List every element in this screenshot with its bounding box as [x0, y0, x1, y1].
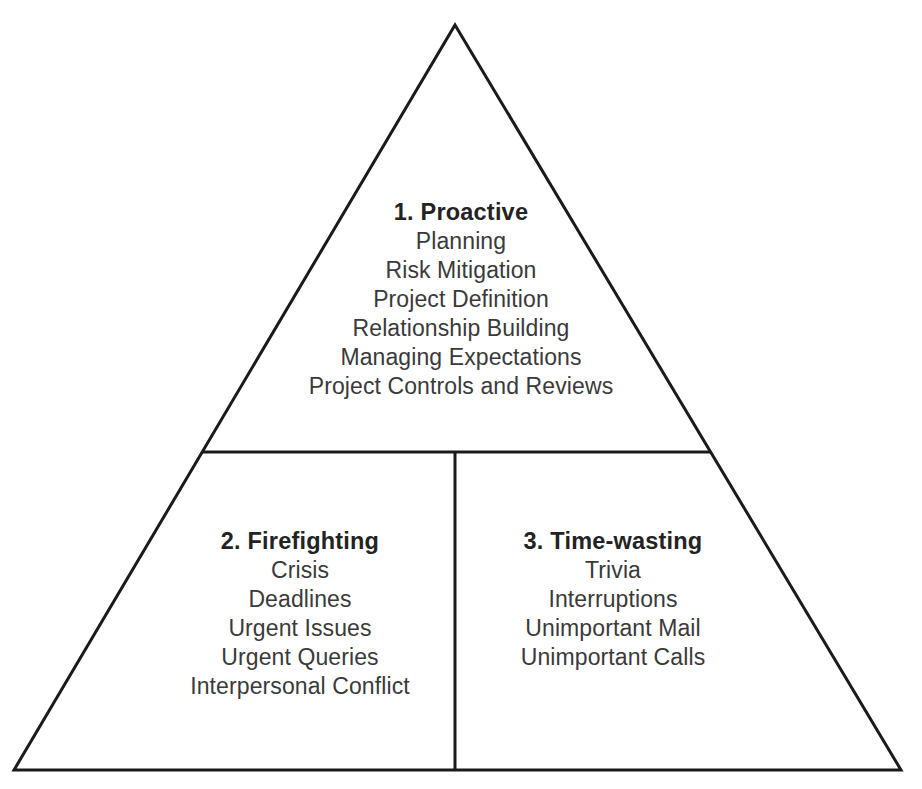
section-firefighting-item: Interpersonal Conflict [100, 672, 500, 701]
section-timewasting-heading: 3. Time-wasting [463, 527, 763, 556]
section-proactive-item: Relationship Building [0, 314, 922, 343]
section-proactive-item: Risk Mitigation [0, 256, 922, 285]
section-timewasting: 3. Time-wasting Trivia Interruptions Uni… [463, 527, 763, 672]
section-timewasting-item: Interruptions [463, 585, 763, 614]
section-firefighting-heading: 2. Firefighting [100, 527, 500, 556]
section-timewasting-item: Trivia [463, 556, 763, 585]
section-proactive-item: Managing Expectations [0, 343, 922, 372]
section-timewasting-item: Unimportant Calls [463, 643, 763, 672]
section-firefighting: 2. Firefighting Crisis Deadlines Urgent … [100, 527, 500, 701]
section-firefighting-item: Urgent Queries [100, 643, 500, 672]
section-proactive-item: Planning [0, 227, 922, 256]
section-firefighting-item: Deadlines [100, 585, 500, 614]
section-proactive-item: Project Definition [0, 285, 922, 314]
pyramid-diagram: 1. Proactive Planning Risk Mitigation Pr… [0, 0, 922, 789]
section-firefighting-item: Urgent Issues [100, 614, 500, 643]
section-firefighting-item: Crisis [100, 556, 500, 585]
section-proactive-heading: 1. Proactive [0, 198, 922, 227]
section-proactive: 1. Proactive Planning Risk Mitigation Pr… [0, 198, 922, 401]
section-timewasting-item: Unimportant Mail [463, 614, 763, 643]
section-proactive-item: Project Controls and Reviews [0, 372, 922, 401]
